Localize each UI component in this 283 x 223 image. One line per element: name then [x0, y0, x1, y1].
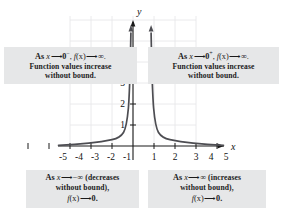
y-tick-label-2: 2	[120, 99, 125, 109]
callout-tl-line3: without bound.	[8, 71, 133, 80]
y-axis-arrow	[131, 20, 136, 27]
axis-lines	[58, 22, 224, 160]
callout-bl-line1: As x ⟶ −∞ (decreases	[30, 173, 135, 183]
callout-bl-line2: without bound),	[30, 183, 135, 192]
x-tick-label--2: -2	[107, 152, 115, 162]
x-tick-label--3: -3	[91, 152, 99, 162]
x-tick-label--1: -1	[123, 152, 131, 162]
callout-negative-infinity-behavior: As x ⟶ −∞ (decreases without bound), f(x…	[26, 170, 139, 208]
callout-right-limit-at-zero: As x ⟶ 0+, f(x) ⟶ ∞. Function values inc…	[148, 47, 279, 84]
x-axis-label: x	[230, 141, 236, 152]
x-tick-label-4: 4	[209, 152, 214, 162]
x-tick-label-5: 5	[224, 152, 229, 162]
callout-left-limit-at-zero: As x ⟶ 0−, f(x) ⟶ ∞. Function values inc…	[4, 47, 137, 84]
x-tick-label--5: -5	[59, 152, 67, 162]
callout-tr-line1: As x ⟶ 0+, f(x) ⟶ ∞.	[152, 50, 275, 62]
callout-tl-line1: As x ⟶ 0−, f(x) ⟶ ∞.	[8, 50, 133, 62]
callout-bl-line3: f(x) ⟶ 0.	[30, 192, 135, 204]
callout-tl-line2: Function values increase	[8, 62, 133, 71]
x-tick-label-2: 2	[173, 152, 178, 162]
callout-br-line3: f(x) ⟶ 0.	[152, 192, 262, 204]
curve-right-arrow	[149, 25, 154, 32]
callout-positive-infinity-behavior: As x ⟶ ∞ (increases without bound), f(x)…	[148, 170, 266, 208]
callout-tr-line2: Function values increase	[152, 62, 275, 71]
x-tick-label-1: 1	[152, 152, 157, 162]
graph-figure: -5 -4 -3 -2 -1 1 2 3 4 5 1 2 3 4 x y As …	[0, 0, 283, 223]
x-tick-label--4: -4	[75, 152, 83, 162]
y-axis-label: y	[136, 6, 142, 17]
callout-br-line2: without bound),	[152, 183, 262, 192]
callout-tr-line3: without bound.	[152, 71, 275, 80]
x-tick-label-3: 3	[194, 152, 199, 162]
callout-br-line1: As x ⟶ ∞ (increases	[152, 173, 262, 183]
